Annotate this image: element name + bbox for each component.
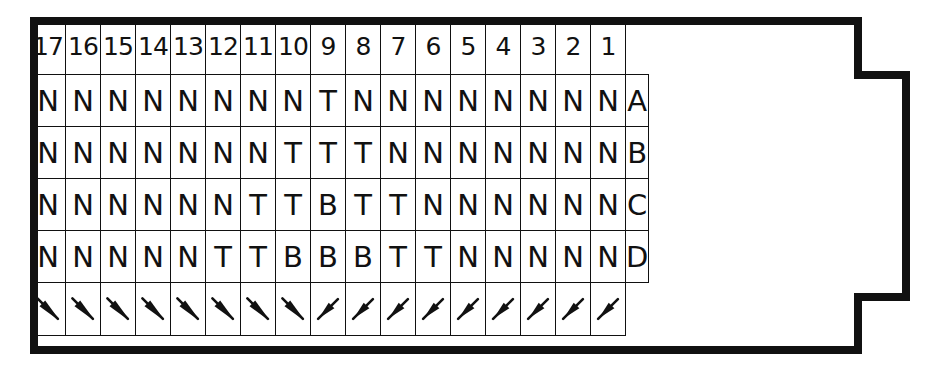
- column-header: 10: [276, 18, 311, 75]
- column-header: 2: [556, 18, 591, 75]
- grid-cell: N: [66, 231, 101, 283]
- grid-row-c: NNNNNNTTBTTNNNNNNC: [31, 179, 649, 231]
- column-header: 8: [346, 18, 381, 75]
- grid-cell: N: [101, 231, 136, 283]
- column-header: 6: [416, 18, 451, 75]
- grid-cell: N: [346, 75, 381, 127]
- grid-cell: N: [451, 127, 486, 179]
- grid-cell: N: [451, 75, 486, 127]
- column-header: 5: [451, 18, 486, 75]
- grid-cell: N: [101, 127, 136, 179]
- corner-blank-bottom: [626, 283, 649, 336]
- grid-cell: N: [486, 179, 521, 231]
- arrow-down-right-icon: [136, 292, 170, 326]
- grid-cell: N: [486, 127, 521, 179]
- grid-cell: N: [66, 127, 101, 179]
- code-grid: 1716151413121110987654321NNNNNNNNTNNNNNN…: [30, 17, 649, 336]
- arrow-up-right-icon: [486, 292, 520, 326]
- arrow-cell: [171, 283, 206, 336]
- grid-cell: N: [101, 75, 136, 127]
- arrow-up-right-icon: [591, 292, 625, 326]
- frame-border-notch-bottom: [854, 293, 862, 354]
- arrow-cell: [381, 283, 416, 336]
- arrow-cell: [486, 283, 521, 336]
- row-label: D: [626, 231, 649, 283]
- grid-cell: N: [486, 231, 521, 283]
- arrow-cell: [346, 283, 381, 336]
- arrow-up-right-icon: [521, 292, 555, 326]
- grid-cell: N: [556, 231, 591, 283]
- grid-cell: T: [346, 127, 381, 179]
- grid-cell: B: [311, 179, 346, 231]
- grid-cell: N: [381, 75, 416, 127]
- arrow-cell: [451, 283, 486, 336]
- grid-cell: N: [591, 75, 626, 127]
- grid-cell: N: [556, 75, 591, 127]
- grid-cell: T: [381, 179, 416, 231]
- arrow-cell: [591, 283, 626, 336]
- arrow-cell: [101, 283, 136, 336]
- grid-cell: N: [521, 231, 556, 283]
- arrow-down-right-icon: [206, 292, 240, 326]
- grid-cell: N: [171, 231, 206, 283]
- grid-cell: N: [521, 179, 556, 231]
- grid-cell: N: [276, 75, 311, 127]
- grid-row-b: NNNNNNNTTTNNNNNNNB: [31, 127, 649, 179]
- column-header: 14: [136, 18, 171, 75]
- arrow-cell: [136, 283, 171, 336]
- arrow-down-right-icon: [66, 292, 100, 326]
- grid-cell: N: [136, 231, 171, 283]
- arrow-up-right-icon: [346, 292, 380, 326]
- column-header: 11: [241, 18, 276, 75]
- grid-cell: N: [591, 179, 626, 231]
- grid-cell: T: [206, 231, 241, 283]
- grid-cell: N: [486, 75, 521, 127]
- grid-cell: N: [136, 179, 171, 231]
- frame-border-notch-top: [854, 17, 862, 79]
- arrow-cell: [206, 283, 241, 336]
- arrow-up-right-icon: [556, 292, 590, 326]
- grid-cell: N: [171, 179, 206, 231]
- column-header: 9: [311, 18, 346, 75]
- arrow-up-right-icon: [381, 292, 415, 326]
- column-header: 4: [486, 18, 521, 75]
- grid-cell: B: [311, 231, 346, 283]
- frame-border-right: [902, 71, 910, 301]
- column-header: 7: [381, 18, 416, 75]
- arrow-up-right-icon: [451, 292, 485, 326]
- grid-row-a: NNNNNNNNTNNNNNNNNA: [31, 75, 649, 127]
- grid-cell: N: [136, 75, 171, 127]
- grid-cell: T: [311, 75, 346, 127]
- grid-cell: B: [346, 231, 381, 283]
- grid-cell: N: [416, 179, 451, 231]
- column-header: 1: [591, 18, 626, 75]
- grid-cell: N: [591, 127, 626, 179]
- arrow-down-right-icon: [101, 292, 135, 326]
- arrow-up-right-icon: [416, 292, 450, 326]
- arrow-cell: [521, 283, 556, 336]
- grid-cell: N: [241, 127, 276, 179]
- frame-border-bottom: [30, 346, 862, 354]
- arrow-cell: [556, 283, 591, 336]
- grid-row-d: NNNNNTTBBBTTNNNNND: [31, 231, 649, 283]
- arrow-cell: [276, 283, 311, 336]
- arrow-down-right-icon: [241, 292, 275, 326]
- arrow-down-right-icon: [276, 292, 310, 326]
- corner-blank: [626, 18, 649, 75]
- grid-cell: B: [276, 231, 311, 283]
- column-header: 15: [101, 18, 136, 75]
- grid-cell: N: [206, 179, 241, 231]
- grid-cell: N: [206, 75, 241, 127]
- arrow-row: [31, 283, 649, 336]
- grid-cell: N: [521, 75, 556, 127]
- grid-cell: N: [171, 75, 206, 127]
- grid-cell: N: [381, 127, 416, 179]
- grid-cell: N: [66, 179, 101, 231]
- grid-cell: N: [521, 127, 556, 179]
- row-label: C: [626, 179, 649, 231]
- arrow-cell: [416, 283, 451, 336]
- grid-cell: N: [416, 75, 451, 127]
- row-label: B: [626, 127, 649, 179]
- grid-cell: N: [171, 127, 206, 179]
- grid-cell: N: [591, 231, 626, 283]
